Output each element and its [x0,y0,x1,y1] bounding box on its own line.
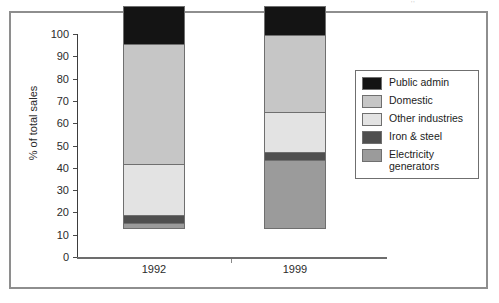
legend-swatch-icon [362,149,382,162]
legend-item-iron-steel[interactable]: Iron & steel [362,130,473,144]
chart-legend: Public adminDomesticOther industriesIron… [355,70,479,179]
y-axis-tick-90: 90 [43,51,69,61]
y-axis-tick-20: 20 [43,207,69,217]
y-axis-tick-50: 50 [43,141,69,151]
legend-label: Iron & steel [389,130,442,142]
legend-item-domestic[interactable]: Domestic [362,94,473,108]
bar-segment-1999-iron-steel[interactable] [265,152,325,160]
legend-swatch-icon [362,131,382,144]
bar-segment-1992-iron-steel[interactable] [124,215,184,223]
y-axis-tick-80: 80 [43,74,69,84]
legend-item-public-admin[interactable]: Public admin [362,76,473,90]
x-axis-label-1992: 1992 [109,263,199,275]
y-axis-line [77,34,78,258]
y-axis-tick-40: 40 [43,163,69,173]
y-axis-tick-60: 60 [43,118,69,128]
legend-label: Electricity generators [389,148,473,172]
chart-figure-frame: % of total sales 0102030405060708090100 … [9,11,488,289]
y-axis-tick-30: 30 [43,185,69,195]
bar-segment-1992-public-admin[interactable] [124,7,184,44]
legend-label: Public admin [389,76,449,88]
legend-label: Domestic [389,94,433,106]
y-axis-tick-10: 10 [43,230,69,240]
bar-segment-1999-electricity-generators[interactable] [265,160,325,228]
x-axis-center-tick [231,259,232,263]
y-axis-tick-100: 100 [43,29,69,39]
legend-swatch-icon [362,95,382,108]
scan-artifact: '' [411,1,425,7]
bar-segment-1999-domestic[interactable] [265,35,325,112]
stacked-bar-1992[interactable] [123,6,185,229]
x-axis-line [77,257,387,259]
y-axis-tick-labels: 0102030405060708090100 [39,13,69,287]
legend-swatch-icon [362,77,382,90]
bar-segment-1992-domestic[interactable] [124,44,184,164]
stacked-bar-1999[interactable] [264,6,326,229]
legend-swatch-icon [362,113,382,126]
bar-segment-1992-electricity-generators[interactable] [124,223,184,228]
y-axis-tick-0: 0 [43,252,69,262]
y-axis-tick-70: 70 [43,96,69,106]
x-axis-label-1999: 1999 [250,263,340,275]
plot-area: % of total sales 0102030405060708090100 … [11,13,486,287]
y-axis-title: % of total sales [27,63,39,183]
legend-item-electricity-generators[interactable]: Electricity generators [362,148,473,172]
bar-segment-1999-other-industries[interactable] [265,112,325,152]
bar-segment-1999-public-admin[interactable] [265,7,325,35]
legend-label: Other industries [389,112,463,124]
legend-item-other-industries[interactable]: Other industries [362,112,473,126]
bar-segment-1992-other-industries[interactable] [124,164,184,215]
